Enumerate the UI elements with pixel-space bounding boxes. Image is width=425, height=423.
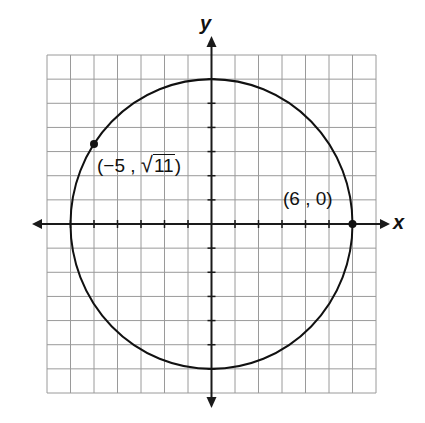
graph-canvas [0,0,425,423]
point-label-neg5-sqrt11: (−5 , √11) [97,152,181,178]
y-axis-label: y [200,12,211,35]
sqrt-expression: √11 [141,152,175,178]
x-axis-arrow-right-icon [380,219,390,229]
point-label-prefix: (−5 , [97,155,141,176]
point-6-0 [349,220,357,228]
y-axis-arrow-down-icon [207,397,217,408]
point-neg5-sqrt11 [90,140,98,148]
y-axis-arrow-up-icon [207,36,217,47]
point-label-suffix: ) [175,155,181,176]
x-axis-label: x [393,211,404,234]
x-axis-arrow-left-icon [32,219,42,229]
coordinate-plane-diagram: y x (−5 , √11) (6 , 0) [0,0,425,423]
axes [32,36,390,408]
radicand: 11 [153,154,175,176]
point-label-6-0: (6 , 0) [283,188,333,210]
radical-icon: √ [141,152,153,177]
